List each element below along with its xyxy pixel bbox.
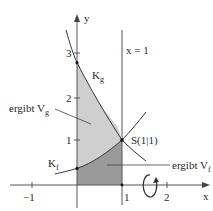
x-axis-arrow-icon (202, 182, 210, 188)
y-axis-label: y (84, 12, 90, 24)
x-axis-label: x (203, 190, 209, 202)
point-f-at-0 (75, 167, 78, 170)
point-s (120, 138, 124, 142)
x-tick-label-neg1: −1 (23, 191, 35, 203)
y-axis-arrow-icon (74, 14, 80, 22)
curve-k-g-label: Kg (92, 69, 104, 84)
point-s-label: S(1|1) (131, 134, 158, 147)
point-x-1 (121, 184, 124, 187)
function-graph: y x 3 2 1 −1 1 2 x = 1 Kg Kf S(1|1) ergi… (0, 0, 213, 211)
line-x-equals-1-label: x = 1 (126, 44, 149, 56)
annotation-v-f: ergibt Vf (172, 159, 211, 174)
curve-k-f-label: Kf (48, 157, 59, 172)
x-tick-label-2: 2 (164, 191, 170, 203)
point-g-at-0 (75, 61, 78, 64)
x-tick-label-1: 1 (124, 191, 130, 203)
annotation-v-g: ergibt Vg (9, 102, 49, 117)
y-tick-label-3: 3 (66, 47, 72, 59)
y-tick-label-1: 1 (66, 134, 72, 146)
y-tick-label-2: 2 (66, 92, 72, 104)
rotation-arrow-icon (143, 175, 159, 197)
